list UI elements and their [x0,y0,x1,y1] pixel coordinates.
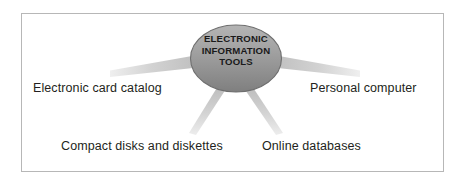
connector-online-databases [245,86,284,135]
node-label-electronic-card-catalog: Electronic card catalog [33,81,162,95]
diagram-canvas: ELECTRONIC INFORMATION TOOLS Electronic … [0,0,465,185]
node-label-online-databases: Online databases [262,139,361,153]
center-node-ellipse [191,25,282,92]
node-label-personal-computer: Personal computer [310,81,417,95]
node-label-compact-disks-and-diskettes: Compact disks and diskettes [61,139,223,153]
connector-compact-disks-and-diskettes [189,86,226,135]
connector-personal-computer [269,55,361,78]
connector-electronic-card-catalog [110,55,203,78]
